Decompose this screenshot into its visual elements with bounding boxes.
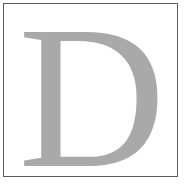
letter-glyph: D bbox=[0, 0, 184, 184]
